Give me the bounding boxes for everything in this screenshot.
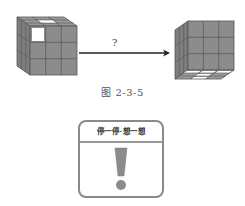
exclamation-icon: [110, 146, 132, 194]
card-title: 停一停·想一想: [80, 122, 162, 143]
left-cube-front-face: [30, 26, 77, 75]
right-cube-front-face: [188, 21, 234, 70]
cube-rotation-figure: ? 图 2-3-5: [0, 0, 245, 110]
left-cube-diagram: [0, 0, 245, 90]
arrow-question-label: ?: [112, 37, 117, 48]
stop-and-think-card: 停一停·想一想: [78, 120, 164, 198]
right-cube-side-face: [175, 21, 188, 79]
figure-caption: 图 2-3-5: [0, 84, 245, 99]
card-body: [80, 143, 162, 198]
left-cube-side-face: [17, 17, 30, 75]
transform-arrow: [79, 50, 170, 57]
